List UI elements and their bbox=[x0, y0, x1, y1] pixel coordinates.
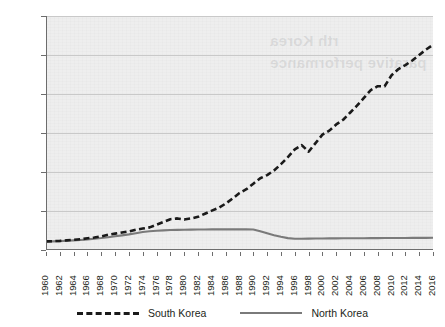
y-axis-tick bbox=[41, 16, 46, 17]
x-axis-tick-label: 1970 bbox=[108, 275, 119, 296]
legend-item-south-korea[interactable]: South Korea bbox=[77, 307, 206, 319]
x-axis-tick-label: 2012 bbox=[398, 275, 409, 296]
x-axis-tick-label: 1960 bbox=[39, 275, 50, 296]
x-axis-tick-label: 1974 bbox=[136, 275, 147, 296]
x-axis-tick-label: 1996 bbox=[288, 275, 299, 296]
y-axis-tick bbox=[41, 94, 46, 95]
x-axis-tick bbox=[281, 252, 282, 256]
x-axis-tick-label: 1968 bbox=[94, 275, 105, 296]
x-axis-tick bbox=[419, 252, 420, 256]
x-axis-tick-label: 1984 bbox=[205, 275, 216, 296]
y-axis-tick bbox=[41, 172, 46, 173]
x-axis-tick bbox=[46, 252, 47, 256]
x-axis-tick bbox=[184, 252, 185, 256]
plot-area: rth Korea parative performance bbox=[46, 16, 433, 250]
x-axis-tick bbox=[198, 252, 199, 256]
x-axis-tick-label: 1982 bbox=[191, 275, 202, 296]
x-axis-tick bbox=[253, 252, 254, 256]
x-axis-tick-label: 1988 bbox=[233, 275, 244, 296]
gdp-per-capita-line-chart: rth Korea parative performance 05 00010 … bbox=[0, 0, 445, 327]
x-axis-tick-label: 2004 bbox=[343, 275, 354, 296]
legend-label-south-korea: South Korea bbox=[148, 307, 206, 319]
x-axis-tick-label: 2006 bbox=[357, 275, 368, 296]
x-axis-tick-label: 2000 bbox=[315, 275, 326, 296]
x-axis-tick-label: 2002 bbox=[329, 275, 340, 296]
x-axis-tick bbox=[157, 252, 158, 256]
y-axis-tick bbox=[41, 211, 46, 212]
x-axis-tick bbox=[309, 252, 310, 256]
x-axis-tick bbox=[129, 252, 130, 256]
series-line-south-korea bbox=[46, 45, 433, 242]
x-axis-tick bbox=[240, 252, 241, 256]
x-axis-tick bbox=[336, 252, 337, 256]
x-axis-tick-label: 2010 bbox=[385, 275, 396, 296]
x-axis-tick bbox=[101, 252, 102, 256]
x-axis-tick bbox=[74, 252, 75, 256]
x-axis-tick bbox=[143, 252, 144, 256]
x-axis-line bbox=[46, 249, 433, 250]
y-axis-tick bbox=[41, 55, 46, 56]
x-axis-tick bbox=[267, 252, 268, 256]
x-axis-tick-label: 1976 bbox=[150, 275, 161, 296]
x-axis-tick bbox=[364, 252, 365, 256]
x-axis-tick-label: 2008 bbox=[371, 275, 382, 296]
y-axis-line bbox=[46, 16, 47, 250]
x-axis-tick-label: 1962 bbox=[53, 275, 64, 296]
x-axis-tick bbox=[87, 252, 88, 256]
x-axis-tick-label: 1986 bbox=[219, 275, 230, 296]
x-axis-tick bbox=[212, 252, 213, 256]
x-axis-tick bbox=[115, 252, 116, 256]
x-axis-tick bbox=[433, 252, 434, 256]
x-axis-tick-label: 1964 bbox=[67, 275, 78, 296]
x-axis-tick-label: 1966 bbox=[80, 275, 91, 296]
x-axis-tick-label: 1998 bbox=[302, 275, 313, 296]
series-layer bbox=[46, 16, 433, 250]
x-axis-tick-label: 1972 bbox=[122, 275, 133, 296]
x-axis-tick bbox=[226, 252, 227, 256]
x-axis-tick bbox=[295, 252, 296, 256]
solid-line-icon bbox=[240, 312, 302, 314]
dashed-line-icon bbox=[77, 312, 139, 315]
x-axis-tick bbox=[378, 252, 379, 256]
x-axis-tick bbox=[322, 252, 323, 256]
legend-item-north-korea[interactable]: North Korea bbox=[240, 307, 368, 319]
legend-label-north-korea: North Korea bbox=[311, 307, 368, 319]
x-axis-tick-label: 2016 bbox=[426, 275, 437, 296]
x-axis-tick-label: 1990 bbox=[246, 275, 257, 296]
y-axis-tick bbox=[41, 133, 46, 134]
x-axis-tick bbox=[405, 252, 406, 256]
x-axis-tick bbox=[170, 252, 171, 256]
x-axis-tick-label: 1994 bbox=[274, 275, 285, 296]
x-axis-tick bbox=[350, 252, 351, 256]
x-axis-tick bbox=[60, 252, 61, 256]
y-axis-tick bbox=[41, 250, 46, 251]
x-axis-tick bbox=[392, 252, 393, 256]
x-axis-tick-label: 1980 bbox=[177, 275, 188, 296]
x-axis-labels: 1960196219641966196819701972197419761978… bbox=[46, 252, 433, 296]
x-axis-tick-label: 2014 bbox=[412, 275, 423, 296]
x-axis-tick-label: 1992 bbox=[260, 275, 271, 296]
x-axis-tick-label: 1978 bbox=[163, 275, 174, 296]
chart-legend: South Korea North Korea bbox=[0, 307, 445, 319]
